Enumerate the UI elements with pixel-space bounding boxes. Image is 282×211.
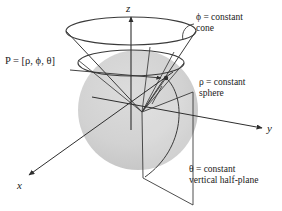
constant-theta-half-plane [142,92,193,205]
x-axis-label: x [17,179,22,191]
cone-callout-line-1: ϕ = constant [196,12,243,23]
cone-callout-line-2: cone [196,23,243,34]
sphere-callout-line-1: ρ = constant [199,77,246,88]
cone-callout: ϕ = constant cone [196,12,243,33]
point-p-label: P = [ρ, ϕ, θ] [5,55,55,67]
half-plane-callout-line-2: vertical half-plane [189,175,258,186]
z-axis-label: z [126,2,130,14]
half-plane-callout-line-1: θ = constant [189,164,258,175]
y-axis-label: y [267,122,272,134]
sphere-callout-line-2: sphere [199,88,246,99]
point-p-marker [164,76,168,80]
half-plane-callout: θ = constant vertical half-plane [189,164,258,185]
sphere-callout: ρ = constant sphere [199,77,246,98]
spherical-coordinates-figure: z y x P = [ρ, ϕ, θ] ϕ = constant cone ρ … [0,0,282,211]
